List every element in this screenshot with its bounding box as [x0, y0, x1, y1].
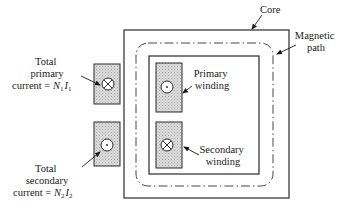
core — [124, 30, 289, 198]
total-primary-label: Total primary — [30, 56, 64, 79]
secondary-winding-arrow — [184, 147, 199, 155]
core-arrow — [252, 15, 262, 29]
right-secondary-winding — [156, 122, 182, 168]
dot-icon — [101, 139, 113, 151]
total-secondary-label: Total secondary — [26, 163, 69, 186]
left-secondary-winding — [94, 122, 120, 166]
dot-icon — [161, 81, 173, 93]
primary-winding-arrow — [183, 86, 192, 93]
right-primary-winding — [156, 63, 182, 112]
total-secondary-equation: current = N2I2 — [13, 187, 73, 200]
secondary-winding-label: Secondary winding — [200, 144, 247, 167]
cross-icon — [102, 78, 114, 90]
cross-icon — [161, 139, 173, 151]
core-label: Core — [260, 4, 281, 15]
total-primary-equation: current = N1I1 — [12, 80, 72, 93]
magnetic-path-label: Magnetic path — [295, 30, 337, 53]
magnetic-path-arrow — [277, 45, 296, 54]
transformer-diagram: Core Magnetic path Primary winding Secon… — [0, 0, 349, 213]
primary-winding-label: Primary winding — [194, 68, 230, 91]
